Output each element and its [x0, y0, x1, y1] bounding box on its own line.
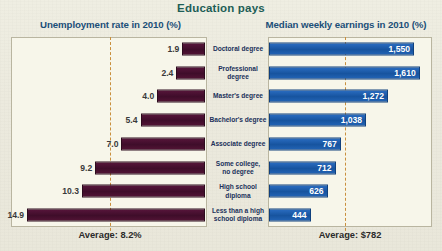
- value-label-unemployment: 10.3: [62, 186, 79, 196]
- bar-unemployment: [176, 66, 205, 79]
- value-label-earnings: 712: [302, 163, 332, 173]
- bar-unemployment: [141, 114, 205, 127]
- value-label-earnings: 626: [294, 186, 324, 196]
- value-label-earnings: 1,272: [354, 91, 384, 101]
- category-label: Associate degree: [208, 140, 268, 148]
- poster-background: Education pays Unemployment rate in 2010…: [0, 0, 442, 251]
- category-label: Less than a highschool diploma: [208, 207, 268, 223]
- bar-unemployment: [95, 161, 205, 174]
- value-label-earnings: 444: [277, 210, 307, 220]
- chart-row: 14.9Less than a highschool diploma444: [0, 203, 442, 227]
- chart-row: 10.3High schooldiploma626: [0, 180, 442, 204]
- category-label: Doctoral degree: [208, 45, 268, 53]
- value-label-unemployment: 1.9: [167, 44, 179, 54]
- value-label-unemployment: 4.0: [142, 91, 154, 101]
- column-header-earnings: Median weekly earnings in 2010 (%): [250, 19, 442, 30]
- category-label: Some college,no degree: [208, 159, 268, 175]
- chart-row: 9.2Some college,no degree712: [0, 156, 442, 180]
- bar-unemployment: [157, 90, 205, 103]
- chart-row: 7.0Associate degree767: [0, 132, 442, 156]
- chart-row: 5.4Bachelor's degree1,038: [0, 108, 442, 132]
- value-label-earnings: 1,610: [386, 68, 416, 78]
- chart-row: 1.9Doctoral degree1,550: [0, 37, 442, 61]
- value-label-unemployment: 5.4: [126, 115, 138, 125]
- value-label-earnings: 1,550: [380, 44, 410, 54]
- bar-unemployment: [182, 42, 205, 55]
- column-header-unemployment: Unemployment rate in 2010 (%): [8, 19, 213, 30]
- chart-row: 4.0Master's degree1,272: [0, 85, 442, 109]
- category-label: Professional degree: [208, 64, 268, 80]
- bar-unemployment: [121, 137, 205, 150]
- value-label-unemployment: 14.9: [7, 210, 24, 220]
- category-label: High schooldiploma: [208, 183, 268, 199]
- category-label: Master's degree: [208, 92, 268, 100]
- chart-rows: 1.9Doctoral degree1,5502.4Professional d…: [0, 37, 442, 227]
- category-label: Bachelor's degree: [208, 116, 268, 124]
- value-label-earnings: 767: [307, 139, 337, 149]
- average-label-earnings: Average: $782: [268, 230, 432, 240]
- bar-unemployment: [82, 185, 205, 198]
- page-title: Education pays: [0, 2, 442, 14]
- value-label-earnings: 1,038: [332, 115, 362, 125]
- chart-row: 2.4Professional degree1,610: [0, 61, 442, 85]
- value-label-unemployment: 2.4: [161, 68, 173, 78]
- average-label-unemployment: Average: 8.2%: [20, 230, 200, 240]
- value-label-unemployment: 9.2: [80, 163, 92, 173]
- bar-unemployment: [27, 209, 205, 222]
- value-label-unemployment: 7.0: [106, 139, 118, 149]
